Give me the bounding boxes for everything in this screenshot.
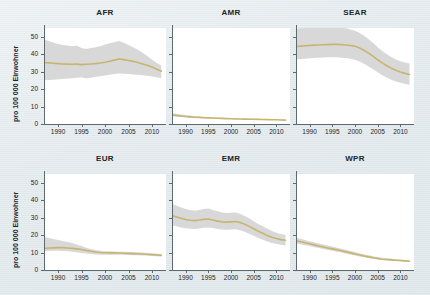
plot-area-wpr — [296, 174, 414, 270]
y-tick — [41, 54, 44, 55]
y-axis-spine — [296, 171, 297, 270]
y-tick — [41, 200, 44, 201]
x-tick-label: 1990 — [174, 274, 198, 281]
series-amr — [172, 28, 290, 124]
series-emr — [172, 174, 290, 270]
y-tick — [169, 253, 172, 254]
x-tick-label: 2000 — [219, 128, 243, 135]
x-tick — [186, 270, 187, 273]
plot-area-afr — [44, 28, 166, 124]
x-tick — [332, 270, 333, 273]
panel-eur: EUR1990199520002005201001020304050pro 10… — [44, 152, 166, 292]
y-axis-title: pro 100 000 Einwohner — [12, 192, 19, 268]
plot-area-amr — [172, 28, 290, 124]
x-tick-label: 2005 — [366, 274, 390, 281]
x-tick-label: 1995 — [196, 128, 220, 135]
panel-title-emr: EMR — [172, 154, 290, 163]
panel-wpr: WPR19901995200020052010 — [296, 152, 414, 292]
y-tick — [169, 37, 172, 38]
panel-title-sear: SEAR — [296, 8, 414, 17]
y-tick — [169, 235, 172, 236]
panel-afr: AFR1990199520002005201001020304050pro 10… — [44, 6, 166, 146]
y-axis-spine — [44, 171, 45, 270]
y-tick — [293, 270, 296, 271]
y-tick — [41, 235, 44, 236]
y-tick-label: 30 — [18, 68, 38, 75]
y-tick — [41, 183, 44, 184]
plot-area-sear — [296, 28, 414, 124]
x-tick-label: 2010 — [388, 274, 412, 281]
x-tick-label: 1995 — [320, 274, 344, 281]
y-tick-label: 10 — [18, 249, 38, 256]
x-tick-label: 2010 — [264, 128, 288, 135]
panel-row-top: AFR1990199520002005201001020304050pro 10… — [0, 6, 430, 146]
figure-canvas: AFR1990199520002005201001020304050pro 10… — [0, 0, 430, 295]
x-tick — [231, 270, 232, 273]
y-tick — [169, 107, 172, 108]
y-tick — [169, 54, 172, 55]
x-tick — [105, 124, 106, 127]
y-tick — [169, 218, 172, 219]
y-tick — [293, 200, 296, 201]
y-tick — [293, 107, 296, 108]
x-tick — [378, 270, 379, 273]
x-tick-label: 1990 — [46, 128, 70, 135]
y-tick-label: 40 — [18, 50, 38, 57]
x-tick-label: 2005 — [117, 128, 141, 135]
y-tick — [41, 37, 44, 38]
x-tick — [355, 124, 356, 127]
x-tick — [276, 270, 277, 273]
y-tick — [293, 235, 296, 236]
series-eur — [44, 174, 166, 270]
x-tick — [208, 124, 209, 127]
x-tick-label: 2005 — [242, 274, 266, 281]
x-tick — [254, 270, 255, 273]
x-tick — [105, 270, 106, 273]
y-tick — [169, 200, 172, 201]
x-tick-label: 2010 — [140, 128, 164, 135]
y-axis-spine — [44, 25, 45, 124]
x-tick — [310, 270, 311, 273]
panel-row-bottom: EUR1990199520002005201001020304050pro 10… — [0, 152, 430, 292]
y-tick — [169, 270, 172, 271]
y-tick — [293, 183, 296, 184]
x-tick-label: 2010 — [388, 128, 412, 135]
uncertainty-band — [296, 238, 409, 262]
y-tick-label: 30 — [18, 214, 38, 221]
x-tick-label: 1995 — [70, 274, 94, 281]
x-tick — [355, 270, 356, 273]
x-tick — [400, 124, 401, 127]
y-tick-label: 50 — [18, 33, 38, 40]
plot-area-emr — [172, 174, 290, 270]
y-tick — [293, 253, 296, 254]
y-tick — [169, 89, 172, 90]
x-tick-label: 2005 — [242, 128, 266, 135]
x-tick — [129, 124, 130, 127]
y-tick-label: 20 — [18, 231, 38, 238]
x-tick — [152, 124, 153, 127]
y-tick-label: 40 — [18, 196, 38, 203]
x-tick-label: 2000 — [219, 274, 243, 281]
panel-title-eur: EUR — [44, 154, 166, 163]
panel-title-wpr: WPR — [296, 154, 414, 163]
plot-area-eur — [44, 174, 166, 270]
y-tick-label: 0 — [18, 120, 38, 127]
panel-title-afr: AFR — [44, 8, 166, 17]
uncertainty-band — [172, 204, 285, 246]
panel-amr: AMR19901995200020052010 — [172, 6, 290, 146]
y-axis-spine — [296, 25, 297, 124]
x-tick-label: 1995 — [320, 128, 344, 135]
x-tick — [152, 270, 153, 273]
x-tick — [378, 124, 379, 127]
x-tick — [276, 124, 277, 127]
y-tick — [293, 37, 296, 38]
y-tick — [41, 253, 44, 254]
x-tick-label: 2000 — [343, 274, 367, 281]
x-tick — [310, 124, 311, 127]
y-axis-spine — [172, 25, 173, 124]
y-tick — [169, 183, 172, 184]
panel-emr: EMR19901995200020052010 — [172, 152, 290, 292]
x-tick-label: 1995 — [70, 128, 94, 135]
x-tick — [208, 270, 209, 273]
y-tick — [169, 72, 172, 73]
